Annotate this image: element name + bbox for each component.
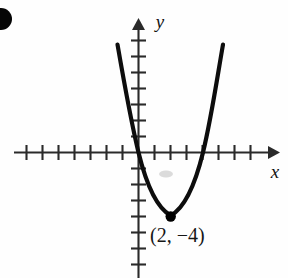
problem-bullet-icon	[0, 8, 12, 30]
paper-smudge	[159, 171, 173, 178]
parabola-figure: x y	[0, 0, 288, 278]
vertex-point-marker	[166, 211, 176, 221]
y-axis-label: y	[154, 11, 165, 32]
vertex-coordinate-label: (2, −4)	[150, 224, 205, 247]
parabola-curve	[118, 45, 224, 216]
x-axis-label: x	[270, 161, 280, 182]
y-axis-arrow-icon	[132, 18, 145, 30]
coordinate-plane-graphic: x y	[0, 0, 288, 278]
x-axis-arrow-icon	[268, 146, 280, 159]
